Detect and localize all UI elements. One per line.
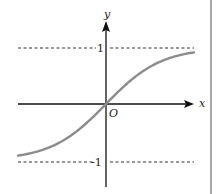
right-border — [210, 0, 212, 194]
upper-asymptote-label: 1 — [97, 42, 104, 55]
origin-label: O — [109, 107, 118, 120]
sigmoid-diagram: 1 -1 x y O — [0, 0, 216, 194]
x-axis-label: x — [199, 97, 206, 110]
y-axis-label: y — [103, 8, 111, 21]
lower-asymptote-label: -1 — [91, 156, 102, 169]
y-axis: y — [102, 8, 111, 187]
